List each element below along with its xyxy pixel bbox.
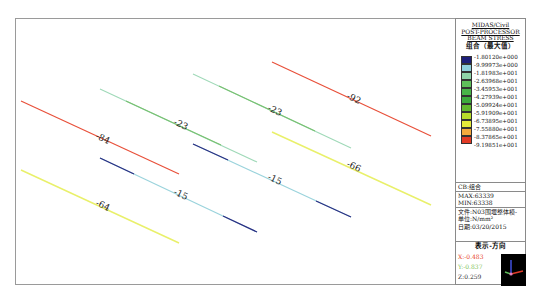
scale-value: -2.63968e+001 — [474, 77, 518, 85]
stress-label: -15 — [172, 187, 190, 202]
scale-value: -1.81983e+001 — [474, 69, 518, 77]
scale-value: -6.73895e+001 — [474, 117, 518, 125]
scale-value: -1.80120e+000 — [474, 53, 518, 61]
max-element: MAX:63339 — [458, 192, 525, 200]
beam-member-segment — [223, 216, 257, 232]
color-swatch — [461, 72, 472, 80]
view-direction: 表示-方向 X:-0.483 Y:-0.837 Z:0.259 — [456, 241, 525, 250]
view-direction-title: 表示-方向 — [456, 242, 525, 250]
combination-title: 组合（最大值） — [456, 42, 525, 50]
unit: 单位:N/mm² — [458, 215, 525, 223]
color-swatch — [461, 80, 472, 88]
beam-member-segment — [100, 158, 134, 174]
color-swatch — [461, 56, 472, 64]
stress-label: -84 — [94, 131, 112, 146]
color-swatch — [461, 104, 472, 112]
model-viewport[interactable]: -84 -64 -23 -15 -23 -15 -92 -66 — [15, 18, 455, 285]
file-name: 文件:N03围堰整体模- — [458, 208, 525, 216]
legend-header: MIDAS/Civil POST-PROCESSOR BEAM STRESS 组… — [456, 22, 525, 50]
scale-value: -9.99973e+000 — [474, 61, 518, 69]
color-swatch — [461, 88, 472, 96]
color-scale — [461, 56, 472, 144]
color-swatch — [461, 64, 472, 72]
scale-value: -3.45953e+001 — [474, 85, 518, 93]
direction-z: Z:0.259 — [458, 272, 484, 282]
legend-panel: MIDAS/Civil POST-PROCESSOR BEAM STRESS 组… — [455, 18, 526, 285]
load-combination: CB:组合 — [458, 183, 525, 191]
direction-y: Y:-0.837 — [458, 262, 484, 272]
scale-value: -8.37865e+001 — [474, 133, 518, 141]
beam-stress-plot: -84 -64 -23 -15 -23 -15 -92 -66 — [16, 19, 456, 286]
scale-value: -5.91909e+001 — [474, 109, 518, 117]
scale-value: -9.19851e+001 — [474, 141, 518, 149]
color-scale-values: -1.80120e+000 -9.99973e+000 -1.81983e+00… — [474, 53, 518, 149]
date: 日期:03/20/2015 — [458, 223, 525, 231]
result-info: CB:组合 MAX:63339 MIN:63338 文件:N03围堰整体模- 单… — [456, 182, 525, 230]
axis-triad-icon — [501, 254, 526, 286]
beam-member-segment — [316, 201, 351, 217]
min-element: MIN:63338 — [458, 199, 525, 207]
stress-label: -92 — [345, 91, 362, 106]
color-swatch — [461, 112, 472, 120]
color-swatch — [461, 136, 472, 144]
scale-value: -5.09924e+001 — [474, 101, 518, 109]
color-swatch — [461, 120, 472, 128]
direction-x: X:-0.483 — [458, 252, 484, 262]
scale-value: -7.55880e+001 — [474, 125, 518, 133]
color-swatch — [461, 128, 472, 136]
color-swatch — [461, 96, 472, 104]
scale-value: -4.27939e+001 — [474, 93, 518, 101]
